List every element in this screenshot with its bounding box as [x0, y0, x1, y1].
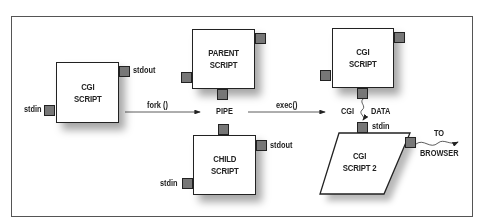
- parent-stdout-port: [255, 33, 266, 44]
- fork-label: fork (): [147, 100, 168, 110]
- stdin-port: [44, 105, 55, 116]
- cgi-right-data-port: [357, 88, 368, 99]
- child-pipe-port: [218, 124, 229, 135]
- browser-label: BROWSER: [420, 148, 459, 158]
- cgi2-stdout-port: [405, 137, 416, 148]
- cgi2-stdin-label: stdin: [372, 121, 390, 131]
- parent-pipe-port: [217, 89, 228, 100]
- pipe-label: PIPE: [216, 106, 233, 116]
- cgi-right-stdout-port: [394, 32, 405, 43]
- cgi-data-left-label: CGI: [341, 106, 354, 116]
- child-stdout-port: [256, 140, 267, 151]
- exec-label: exec(): [276, 100, 297, 110]
- cgi-right-stdin-port: [320, 70, 331, 81]
- cgi-script-2-label: CGI SCRIPT 2: [343, 150, 377, 174]
- child-stdin-label: stdin: [160, 178, 178, 188]
- child-script-label: CHILD SCRIPT: [211, 153, 239, 177]
- cgi-data-arrow: [361, 99, 364, 120]
- cgi-script-right-label: CGI SCRIPT: [349, 46, 377, 70]
- diagram-canvas: CGI SCRIPT stdin stdout fork () PARENT S…: [0, 0, 482, 223]
- to-label: TO: [434, 128, 444, 138]
- child-script-node: CHILD SCRIPT: [193, 135, 256, 195]
- child-stdin-port: [182, 178, 193, 189]
- stdout-port: [119, 66, 130, 77]
- to-browser-arrow: [416, 141, 458, 145]
- cgi-script-right-node: CGI SCRIPT: [332, 28, 394, 88]
- cgi2-stdin-port: [357, 122, 368, 133]
- cgi-data-right-label: DATA: [371, 106, 390, 116]
- stdout-label: stdout: [133, 65, 156, 75]
- parent-stdin-port: [181, 72, 192, 83]
- cgi-script-node: CGI SCRIPT: [56, 62, 119, 123]
- cgi-script-2-node: CGI SCRIPT 2: [335, 150, 385, 175]
- cgi-script-label: CGI SCRIPT: [74, 81, 102, 105]
- parent-script-label: PARENT SCRIPT: [208, 47, 238, 71]
- parent-script-node: PARENT SCRIPT: [192, 29, 255, 89]
- stdin-label: stdin: [24, 104, 42, 114]
- child-stdout-label: stdout: [270, 140, 293, 150]
